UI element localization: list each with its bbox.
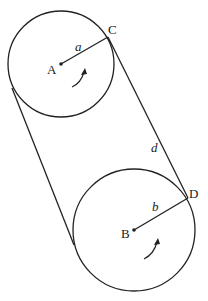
belt-left-tangent [12, 88, 74, 245]
label-a-center: A [47, 62, 57, 77]
center-a-dot [59, 62, 63, 66]
label-b-center: B [121, 226, 130, 241]
radius-a-line [61, 37, 108, 64]
label-d-point: D [189, 186, 198, 201]
label-radius-b: b [152, 199, 159, 214]
label-distance-d: d [151, 140, 158, 155]
belt-right-tangent [108, 37, 188, 198]
radius-b-line [134, 198, 188, 230]
label-c-point: C [108, 22, 117, 37]
center-b-dot [132, 228, 136, 232]
rotation-arrow-b-icon [144, 238, 160, 259]
label-radius-a: a [75, 39, 82, 54]
pulley-diagram: A C a d D b B [0, 0, 208, 301]
rotation-arrow-a-icon [72, 68, 87, 87]
